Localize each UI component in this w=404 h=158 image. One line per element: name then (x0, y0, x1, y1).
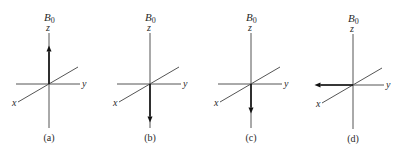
x-label: x (112, 97, 118, 108)
vector-arrowhead (148, 117, 153, 123)
panel-b: B0zyx(b) (112, 11, 188, 144)
z-label: z (349, 23, 354, 34)
x-label: x (213, 97, 219, 108)
vector-arrowhead (315, 83, 321, 88)
vector-arrowhead (249, 107, 254, 113)
z-label: z (146, 22, 151, 33)
panel-d: B0zyx(d) (315, 12, 392, 145)
panel-caption: (c) (245, 132, 256, 144)
panel-caption: (d) (347, 133, 359, 145)
panel-a: B0zyx(a) (11, 11, 87, 144)
x-label: x (11, 97, 17, 108)
panel-c: B0zyx(c) (213, 11, 289, 144)
y-label: y (182, 78, 188, 89)
y-label: y (385, 79, 391, 90)
y-label: y (81, 78, 87, 89)
x-label: x (315, 98, 321, 109)
vector-arrowhead (47, 46, 52, 52)
y-label: y (283, 78, 289, 89)
panel-caption: (a) (43, 132, 54, 144)
z-label: z (45, 22, 50, 33)
z-label: z (247, 22, 252, 33)
magnetization-figure: B0zyx(a)B0zyx(b)B0zyx(c)B0zyx(d) (0, 0, 404, 158)
panel-caption: (b) (144, 132, 156, 144)
